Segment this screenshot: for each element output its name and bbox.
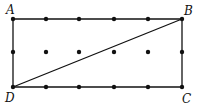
lattice-point-r1-c0 bbox=[11, 50, 15, 54]
lattice-point-r2-c4 bbox=[146, 85, 150, 89]
segments bbox=[13, 19, 182, 87]
segment-DB bbox=[13, 19, 182, 87]
lattice-rectangle-diagram: A B C D bbox=[0, 0, 201, 111]
lattice-point-r2-c3 bbox=[112, 85, 116, 89]
lattice-point-r2-c5 bbox=[180, 85, 184, 89]
label-A: A bbox=[5, 3, 15, 17]
lattice-point-r1-c4 bbox=[146, 50, 150, 54]
lattice-point-r2-c0 bbox=[11, 85, 15, 89]
lattice-point-r1-c3 bbox=[112, 50, 116, 54]
lattice-point-r1-c5 bbox=[180, 50, 184, 54]
lattice-point-r0-c2 bbox=[77, 17, 81, 21]
label-D: D bbox=[4, 91, 15, 105]
label-B: B bbox=[183, 4, 193, 18]
lattice-point-r0-c4 bbox=[146, 17, 150, 21]
lattice-point-r2-c2 bbox=[77, 85, 81, 89]
lattice-point-r1-c2 bbox=[77, 50, 81, 54]
lattice-point-r0-c1 bbox=[44, 17, 48, 21]
lattice-point-r2-c1 bbox=[44, 85, 48, 89]
label-C: C bbox=[182, 92, 191, 106]
lattice-point-r1-c1 bbox=[44, 50, 48, 54]
lattice-point-r0-c3 bbox=[112, 17, 116, 21]
lattice-point-r0-c0 bbox=[11, 17, 15, 21]
